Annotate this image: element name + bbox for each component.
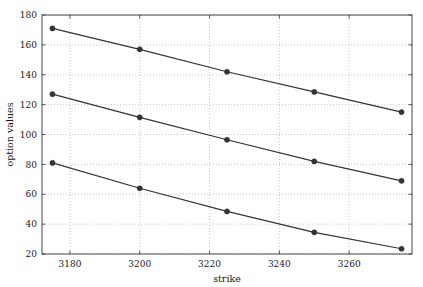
data-point-marker (137, 115, 142, 120)
data-point-marker (312, 89, 317, 94)
y-tick-label: 60 (26, 189, 38, 199)
data-point-marker (137, 186, 142, 191)
data-point-marker (224, 137, 229, 142)
option-values-line-chart: 3180320032203240326020406080100120140160… (0, 0, 423, 287)
data-point-marker (399, 246, 404, 251)
data-point-marker (50, 160, 55, 165)
data-point-marker (137, 47, 142, 52)
y-tick-label: 80 (26, 160, 38, 170)
y-tick-label: 100 (20, 130, 37, 140)
x-tick-label: 3260 (338, 259, 361, 269)
data-point-marker (312, 159, 317, 164)
data-point-marker (399, 109, 404, 114)
data-point-marker (399, 178, 404, 183)
data-point-marker (224, 209, 229, 214)
y-axis-title: option values (4, 102, 15, 166)
y-tick-label: 160 (20, 40, 37, 50)
y-tick-label: 120 (20, 100, 37, 110)
chart-figure: 3180320032203240326020406080100120140160… (0, 0, 423, 287)
x-axis-title: strike (213, 273, 241, 284)
x-tick-label: 3200 (128, 259, 151, 269)
x-tick-label: 3220 (198, 259, 221, 269)
y-tick-label: 180 (20, 10, 37, 20)
chart-background (0, 0, 423, 287)
data-point-marker (50, 92, 55, 97)
y-tick-label: 40 (26, 219, 38, 229)
y-tick-label: 140 (20, 70, 37, 80)
data-point-marker (50, 26, 55, 31)
x-tick-label: 3180 (58, 259, 81, 269)
x-tick-label: 3240 (268, 259, 291, 269)
data-point-marker (312, 230, 317, 235)
y-tick-label: 20 (26, 249, 38, 259)
data-point-marker (224, 69, 229, 74)
